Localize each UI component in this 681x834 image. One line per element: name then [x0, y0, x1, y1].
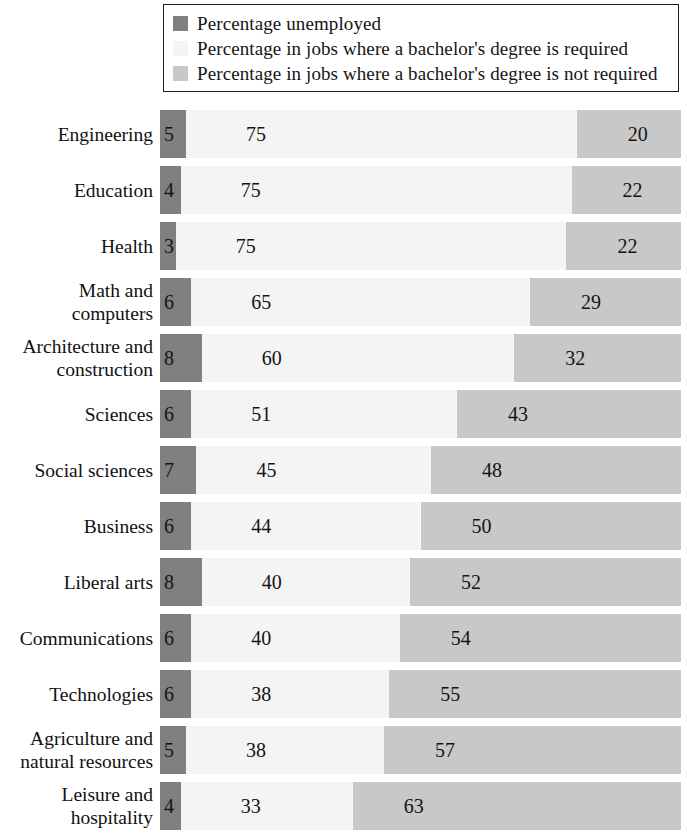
legend-label-unemployed: Percentage unemployed [197, 11, 381, 36]
value-degree-required: 75 [236, 222, 256, 270]
value-unemployed: 3 [164, 222, 174, 270]
chart-rows: Engineering57520Education47522Health3752… [0, 110, 681, 834]
chart-row: Health37522 [0, 222, 681, 278]
category-label: Architecture and construction [0, 334, 153, 382]
category-label: Health [0, 222, 153, 270]
bar-track: 64450 [160, 502, 681, 550]
value-unemployed: 5 [164, 726, 174, 774]
category-label: Social sciences [0, 446, 153, 494]
chart-row: Liberal arts84052 [0, 558, 681, 614]
chart-row: Math and computers66529 [0, 278, 681, 334]
chart-row: Business64450 [0, 502, 681, 558]
bar-segment-degree-not-required [457, 390, 681, 438]
bar-segment-degree-not-required [410, 558, 681, 606]
category-label: Math and computers [0, 278, 153, 326]
legend-swatch-unemployed [173, 16, 188, 31]
legend-label-degree-required: Percentage in jobs where a bachelor's de… [197, 36, 628, 61]
value-degree-not-required: 54 [451, 614, 471, 662]
legend-item-degree-not-required: Percentage in jobs where a bachelor's de… [173, 61, 670, 86]
bar-segment-degree-required [181, 166, 572, 214]
chart-row: Social sciences74548 [0, 446, 681, 502]
bar-track: 74548 [160, 446, 681, 494]
value-unemployed: 7 [164, 446, 174, 494]
bar-track: 64054 [160, 614, 681, 662]
value-unemployed: 4 [164, 782, 174, 830]
value-unemployed: 5 [164, 110, 174, 158]
bar-segment-degree-required [176, 222, 567, 270]
value-degree-not-required: 22 [623, 166, 643, 214]
category-label: Leisure and hospitality [0, 782, 153, 830]
bar-segment-degree-not-required [431, 446, 681, 494]
value-degree-not-required: 57 [435, 726, 455, 774]
chart-row: Sciences65143 [0, 390, 681, 446]
category-label: Agriculture and natural resources [0, 726, 153, 774]
value-degree-required: 45 [256, 446, 276, 494]
legend-item-unemployed: Percentage unemployed [173, 11, 670, 36]
bar-segment-degree-required [191, 390, 457, 438]
value-degree-required: 38 [246, 726, 266, 774]
bar-track: 63855 [160, 670, 681, 718]
value-degree-not-required: 50 [472, 502, 492, 550]
value-unemployed: 4 [164, 166, 174, 214]
category-label: Communications [0, 614, 153, 662]
chart-row: Communications64054 [0, 614, 681, 670]
bar-track: 86032 [160, 334, 681, 382]
bar-segment-degree-required [202, 334, 515, 382]
bar-segment-degree-required [191, 670, 389, 718]
chart-row: Architecture and construction86032 [0, 334, 681, 390]
category-label: Technologies [0, 670, 153, 718]
value-unemployed: 6 [164, 278, 174, 326]
bar-track: 47522 [160, 166, 681, 214]
bar-segment-degree-required [202, 558, 410, 606]
category-label: Education [0, 166, 153, 214]
value-degree-not-required: 52 [461, 558, 481, 606]
value-degree-required: 65 [251, 278, 271, 326]
value-degree-not-required: 29 [581, 278, 601, 326]
bar-segment-degree-required [181, 782, 353, 830]
value-degree-required: 33 [241, 782, 261, 830]
bar-track: 57520 [160, 110, 681, 158]
value-degree-not-required: 43 [508, 390, 528, 438]
value-unemployed: 6 [164, 670, 174, 718]
value-degree-required: 75 [241, 166, 261, 214]
bar-segment-degree-not-required [514, 334, 681, 382]
value-unemployed: 8 [164, 558, 174, 606]
bar-track: 65143 [160, 390, 681, 438]
legend-swatch-degree-required [173, 41, 188, 56]
bar-track: 43363 [160, 782, 681, 830]
chart-row: Leisure and hospitality43363 [0, 782, 681, 834]
category-label: Business [0, 502, 153, 550]
chart-legend: Percentage unemployed Percentage in jobs… [163, 4, 679, 92]
bar-segment-degree-not-required [389, 670, 681, 718]
value-unemployed: 6 [164, 614, 174, 662]
bar-segment-degree-not-required [530, 278, 681, 326]
legend-label-degree-not-required: Percentage in jobs where a bachelor's de… [197, 61, 658, 86]
value-degree-not-required: 32 [565, 334, 585, 382]
value-degree-required: 75 [246, 110, 266, 158]
value-degree-required: 60 [262, 334, 282, 382]
bar-segment-degree-not-required [384, 726, 681, 774]
bar-segment-degree-required [186, 726, 384, 774]
bar-track: 84052 [160, 558, 681, 606]
value-unemployed: 8 [164, 334, 174, 382]
category-label: Sciences [0, 390, 153, 438]
chart-row: Agriculture and natural resources53857 [0, 726, 681, 782]
category-label: Engineering [0, 110, 153, 158]
legend-swatch-degree-not-required [173, 66, 188, 81]
chart-row: Education47522 [0, 166, 681, 222]
bar-track: 66529 [160, 278, 681, 326]
value-degree-required: 40 [262, 558, 282, 606]
value-degree-required: 44 [251, 502, 271, 550]
bar-segment-degree-not-required [421, 502, 681, 550]
value-degree-not-required: 63 [404, 782, 424, 830]
bar-segment-degree-required [191, 278, 530, 326]
bar-segment-degree-not-required [353, 782, 681, 830]
bar-track: 53857 [160, 726, 681, 774]
bar-segment-degree-required [186, 110, 577, 158]
value-degree-required: 51 [251, 390, 271, 438]
value-degree-required: 40 [251, 614, 271, 662]
value-degree-not-required: 55 [440, 670, 460, 718]
chart-row: Engineering57520 [0, 110, 681, 166]
value-degree-required: 38 [251, 670, 271, 718]
